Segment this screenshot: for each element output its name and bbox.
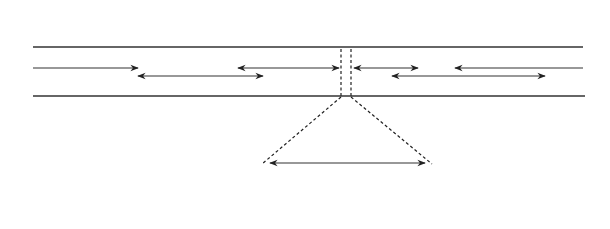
visible-zoom-line-left (262, 97, 341, 164)
visible-zoom-line-right (351, 97, 432, 164)
em-spectrum-diagram (0, 0, 610, 229)
